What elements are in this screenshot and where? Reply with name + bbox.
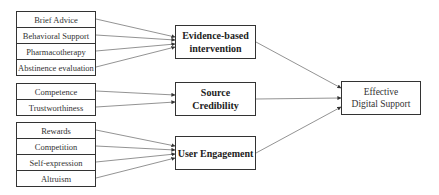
- arrow-source-to-outcome: [256, 98, 341, 99]
- arrow-competence: [96, 91, 175, 95]
- arrow-behavioral-support: [96, 35, 175, 40]
- factor-altruism: Altruism: [16, 170, 96, 187]
- construct-label-line: User Engagement: [178, 147, 254, 160]
- construct-label-line: Credibility: [192, 99, 238, 112]
- outcome-label-line: Digital Support: [352, 98, 411, 110]
- factor-label: Competence: [35, 87, 77, 97]
- construct-label-line: intervention: [189, 42, 241, 55]
- outcome-label-line: Effective: [364, 86, 399, 98]
- factor-abstinence-evaluation: Abstinence evaluation: [16, 59, 96, 76]
- construct-label-line: Evidence-based: [182, 29, 249, 42]
- diagram-canvas: Brief Advice Behavioral Support Pharmaco…: [0, 0, 439, 195]
- factor-label: Self-expression: [30, 158, 83, 168]
- outcome-effective-digital-support: Effective Digital Support: [341, 81, 421, 115]
- factor-competence: Competence: [16, 83, 96, 100]
- factor-pharmacotherapy: Pharmacotherapy: [16, 43, 96, 60]
- arrow-trustworthiness: [96, 102, 175, 107]
- factor-brief-advice: Brief Advice: [16, 11, 96, 28]
- construct-evidence-based-intervention: Evidence-based intervention: [175, 25, 256, 59]
- arrow-competition: [96, 146, 175, 150]
- construct-user-engagement: User Engagement: [175, 136, 256, 170]
- factor-label: Trustworthiness: [29, 103, 83, 113]
- factor-label: Rewards: [41, 126, 71, 136]
- factor-label: Abstinence evaluation: [18, 63, 94, 73]
- factor-label: Behavioral Support: [23, 31, 89, 41]
- factor-trustworthiness: Trustworthiness: [16, 99, 96, 116]
- factor-self-expression: Self-expression: [16, 154, 96, 171]
- factor-rewards: Rewards: [16, 122, 96, 139]
- factor-label: Competition: [35, 142, 78, 152]
- factor-label: Altruism: [41, 174, 71, 184]
- factor-label: Brief Advice: [34, 15, 78, 25]
- factor-behavioral-support: Behavioral Support: [16, 27, 96, 44]
- factor-competition: Competition: [16, 138, 96, 155]
- arrow-evidence-to-outcome: [256, 42, 341, 88]
- arrow-brief-advice: [96, 19, 175, 37]
- arrow-engagement-to-outcome: [256, 107, 341, 153]
- arrow-rewards: [96, 130, 175, 146]
- construct-source-credibility: Source Credibility: [175, 82, 256, 116]
- construct-label-line: Source: [201, 86, 230, 99]
- factor-label: Pharmacotherapy: [26, 47, 85, 57]
